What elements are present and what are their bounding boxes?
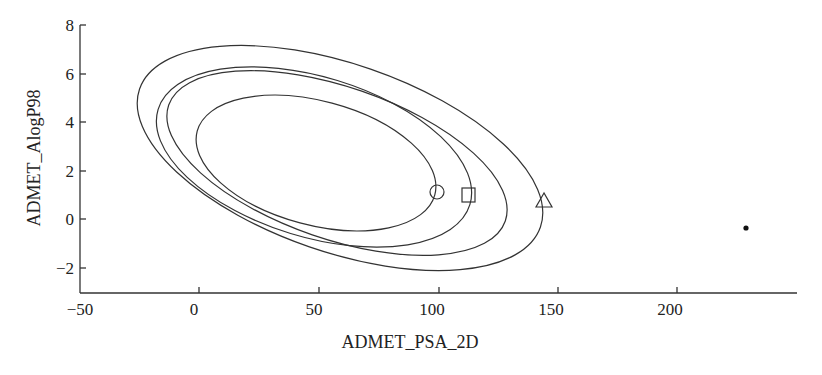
x-tick-label: 150 <box>538 300 564 319</box>
scatter-chart: 8 6 4 2 0 −2 −50 0 50 100 150 200 ADMET_… <box>0 0 822 375</box>
x-tick-label: 200 <box>657 300 683 319</box>
ellipses <box>109 0 571 316</box>
x-axis-title: ADMET_PSA_2D <box>341 332 478 352</box>
x-tick-label: 50 <box>306 300 323 319</box>
x-tick-label: 0 <box>190 300 199 319</box>
y-tick-label: 8 <box>66 16 75 35</box>
y-tick-label: −2 <box>56 259 74 278</box>
ellipse-third <box>144 33 530 293</box>
triangle-marker <box>536 193 552 207</box>
y-tick-labels: 8 6 4 2 0 −2 <box>56 16 75 278</box>
markers <box>430 185 749 231</box>
x-tick-labels: −50 0 50 100 150 200 <box>67 300 683 319</box>
circle-marker <box>430 185 444 199</box>
square-marker <box>462 188 475 202</box>
x-ticks <box>199 287 677 293</box>
ellipse-outer <box>109 0 571 316</box>
ellipse-second <box>135 33 494 281</box>
y-tick-label: 6 <box>66 65 75 84</box>
ellipse-inner <box>181 71 451 254</box>
y-tick-label: 4 <box>66 113 75 132</box>
y-ticks <box>80 25 86 268</box>
x-tick-label: −50 <box>67 300 94 319</box>
x-tick-label: 100 <box>419 300 445 319</box>
y-tick-label: 0 <box>66 210 75 229</box>
y-tick-label: 2 <box>66 162 75 181</box>
y-axis-title: ADMET_AlogP98 <box>24 89 44 226</box>
dot-marker <box>743 225 748 230</box>
